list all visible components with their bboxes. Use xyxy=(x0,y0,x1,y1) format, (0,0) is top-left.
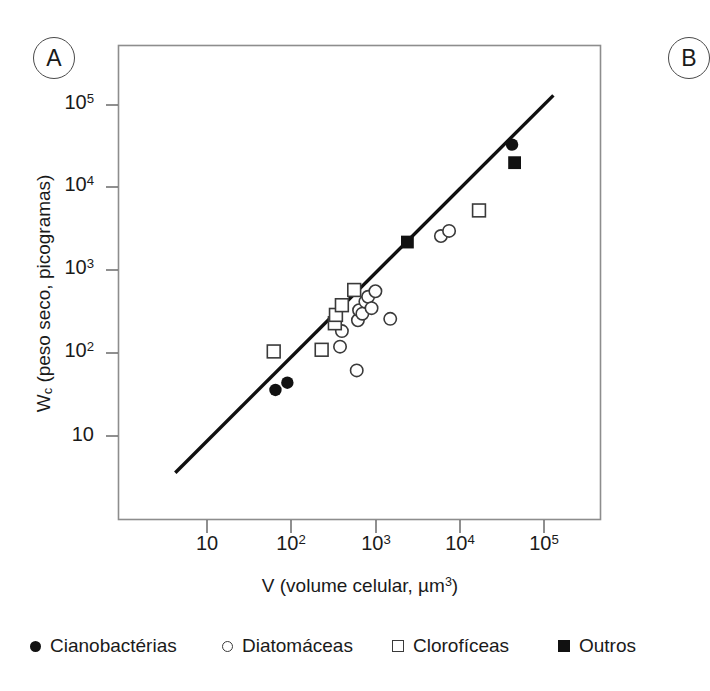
legend-label: Diatomáceas xyxy=(242,635,353,657)
open-circle-icon xyxy=(222,641,233,652)
legend-item-cianobacterias[interactable]: Cianobactérias xyxy=(30,632,177,660)
data-point xyxy=(443,225,455,237)
trend-line-segment xyxy=(175,95,553,472)
filled-circle-icon xyxy=(30,641,41,652)
data-point xyxy=(384,313,396,325)
data-point xyxy=(315,343,328,356)
data-point xyxy=(401,236,414,249)
data-point xyxy=(281,377,293,389)
data-point xyxy=(335,299,348,312)
data-point xyxy=(351,364,363,376)
filled-square-icon xyxy=(558,640,570,652)
plot-frame xyxy=(119,46,601,520)
legend-label: Outros xyxy=(579,635,636,657)
data-point xyxy=(506,138,518,150)
data-point xyxy=(334,340,346,352)
data-point xyxy=(473,204,486,217)
data-point xyxy=(267,345,280,358)
data-point xyxy=(369,285,381,297)
open-square-icon xyxy=(392,640,404,652)
data-markers xyxy=(267,138,521,396)
legend-label: Clorofíceas xyxy=(413,635,509,657)
legend-item-cloroficeas[interactable]: Clorofíceas xyxy=(392,632,509,660)
series-diatom-ceas xyxy=(334,225,455,377)
trend-line xyxy=(175,95,553,472)
y-axis-ticks xyxy=(106,105,118,436)
legend-label: Cianobactérias xyxy=(50,635,177,657)
data-point xyxy=(365,302,377,314)
legend: Cianobactérias Diatomáceas Clorofíceas O… xyxy=(30,632,650,662)
series-outros xyxy=(401,156,521,248)
data-point xyxy=(508,156,521,169)
series-cianobact-rias xyxy=(269,138,518,396)
data-point xyxy=(269,384,281,396)
legend-item-diatomaceas[interactable]: Diatomáceas xyxy=(222,632,353,660)
data-point xyxy=(348,284,361,297)
legend-item-outros[interactable]: Outros xyxy=(558,632,636,660)
x-axis-ticks xyxy=(207,520,544,533)
